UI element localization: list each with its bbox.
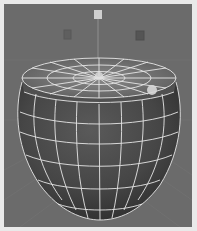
viewport-frame <box>0 0 197 231</box>
light-left-icon <box>64 30 71 39</box>
3d-viewport[interactable] <box>4 4 192 227</box>
viewport-scene <box>4 4 192 227</box>
light-top-icon <box>94 10 102 19</box>
light-right-icon <box>136 31 144 40</box>
specular-highlight <box>147 85 157 95</box>
